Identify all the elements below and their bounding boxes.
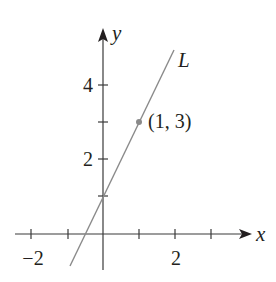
x-axis: −2 2 x [15,222,266,269]
x-tick-label-2: 2 [171,247,181,269]
y-tick-label-4: 4 [83,74,93,96]
x-axis-label: x [255,222,266,246]
point-1-3: (1, 3) [136,110,191,133]
y-axis-label: y [110,21,122,45]
line-label-L: L [177,48,190,72]
y-tick-label-2: 2 [83,148,93,170]
x-tick-label-neg2: −2 [22,247,43,269]
data-point [136,119,142,125]
point-label: (1, 3) [148,110,191,133]
y-axis: 4 2 y [83,21,122,270]
chart-canvas: −2 2 x 4 2 y L (1, 3) [0,0,276,282]
